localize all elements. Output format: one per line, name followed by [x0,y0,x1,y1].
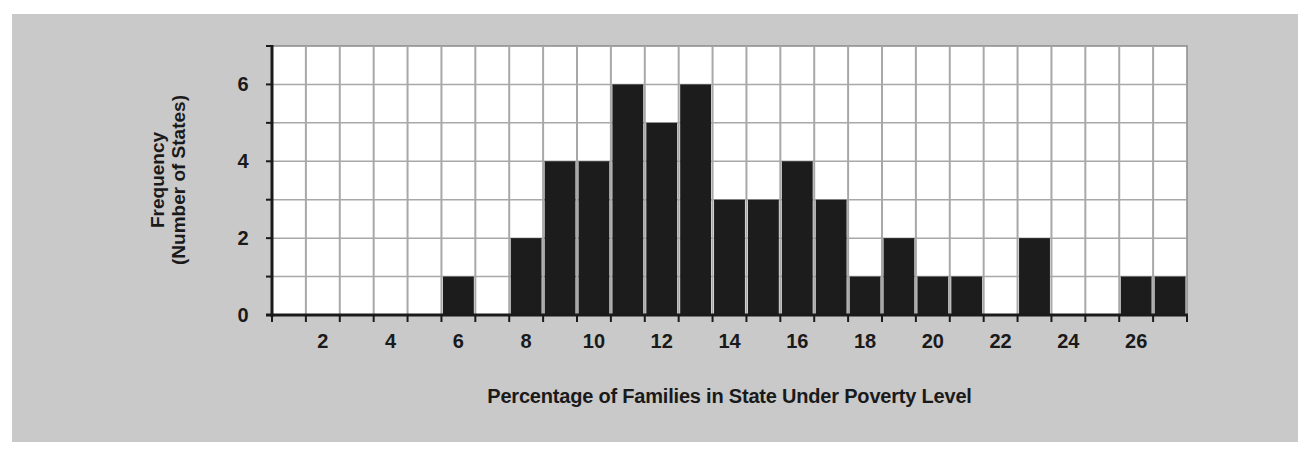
bar-10 [579,161,610,315]
x-tick-label-14: 14 [718,330,741,352]
bar-19 [884,238,915,315]
bar-17 [816,200,847,315]
bar-8 [511,238,542,315]
bar-6 [443,277,474,315]
bar-15 [748,200,779,315]
y-tick-label-4: 4 [237,150,249,172]
y-tick-label-2: 2 [237,227,248,249]
x-tick-label-12: 12 [651,330,673,352]
bar-20 [917,277,948,315]
bar-27 [1155,277,1186,315]
x-tick-label-18: 18 [854,330,876,352]
bar-26 [1121,277,1152,315]
x-tick-label-20: 20 [922,330,944,352]
bar-18 [850,277,881,315]
y-axis-label-line-1: Frequency [147,95,168,265]
x-tick-label-6: 6 [453,330,464,352]
x-tick-label-2: 2 [317,330,328,352]
x-tick-label-8: 8 [521,330,532,352]
bar-12 [646,123,677,315]
bar-13 [680,84,711,315]
bar-16 [782,161,813,315]
bar-14 [714,200,745,315]
y-axis-label-line-2: (Number of States) [168,95,189,265]
x-axis-label: Percentage of Families in State Under Po… [272,385,1187,408]
bar-9 [545,161,576,315]
x-tick-label-16: 16 [786,330,808,352]
y-tick-label-0: 0 [237,304,248,326]
x-tick-label-24: 24 [1057,330,1080,352]
y-axis-ticks: 0246 [237,73,272,326]
bar-23 [1019,238,1050,315]
x-tick-label-10: 10 [583,330,605,352]
y-tick-label-6: 6 [237,73,248,95]
x-tick-label-4: 4 [385,330,397,352]
x-axis-ticks: 2468101214161820222426 [272,315,1187,352]
x-tick-label-22: 22 [989,330,1011,352]
bar-11 [612,84,643,315]
y-axis-label: Frequency (Number of States) [147,95,189,265]
x-tick-label-26: 26 [1125,330,1147,352]
bar-21 [951,277,982,315]
